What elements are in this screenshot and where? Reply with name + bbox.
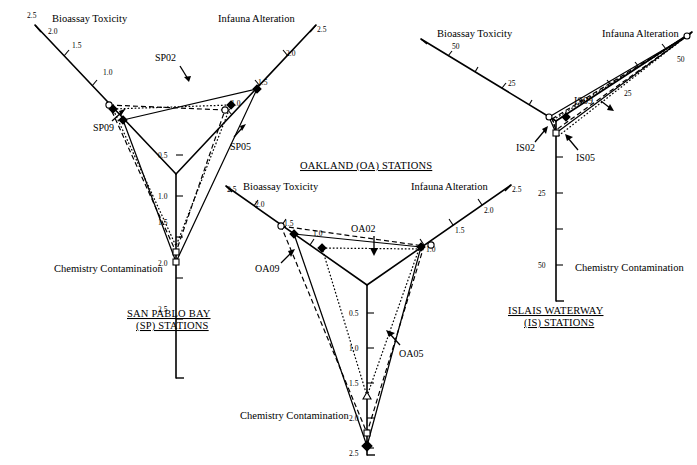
panel-is: 25 50 25 50 25 50 Bioassay Toxicity Infa…: [421, 28, 692, 329]
sp-tick-infauna-2: 1.5: [258, 78, 268, 87]
is-callout-IS05: IS05: [565, 134, 595, 163]
oa-marker-OA09-chemistry: [364, 430, 370, 436]
sp-axislabel-chemistry: Chemistry Contamination: [54, 263, 164, 274]
sp-tick-bioassay-1: 1.0: [103, 68, 113, 77]
sp-tick-infauna-3: 2.0: [286, 49, 296, 58]
oa-arrow-OA02-icon: [370, 248, 378, 256]
is-callout-IS02: IS02: [516, 126, 548, 153]
sp-markers: [106, 85, 261, 265]
sp-axislabel-infauna: Infauna Alteration: [218, 13, 295, 24]
sp-marker-SP05-chemistry: [173, 259, 179, 265]
is-marker-IS09-infauna: [684, 33, 690, 39]
sp-tick-infauna-4: 2.5: [317, 25, 327, 34]
figure-canvas: 1.0 1.5 2.0 2.5 1.0 1.5 2.0 2.5 0.5 1.0 …: [0, 0, 697, 465]
triad-figure: 1.0 1.5 2.0 2.5 1.0 1.5 2.0 2.5 0.5 1.0 …: [0, 0, 697, 465]
oa-series-OA02: [322, 248, 419, 396]
sp-tick-chem-1: 0.5: [158, 151, 168, 160]
oa-title-line1: OAKLAND (OA) STATIONS: [300, 160, 432, 172]
oa-marker-OA09-infauna: [428, 242, 434, 248]
sp-marker-SP02-chemistry: [173, 249, 179, 255]
sp-ticks-infauna: 1.0 1.5 2.0 2.5: [227, 25, 327, 115]
is-series-IS05: [553, 39, 683, 137]
panel-oa: OAKLAND (OA) STATIONS 1.0 1.5 2.0 2.5 1.…: [226, 160, 522, 458]
sp-marker-SP05-bioassay: [119, 116, 127, 124]
sp-axislabel-bioassay: Bioassay Toxicity: [52, 13, 128, 24]
is-tick-chem-2: 50: [538, 261, 546, 270]
is-series-IS02: [552, 34, 690, 130]
is-ticks-chemistry: 25 50: [538, 157, 563, 270]
sp-title-line2: (SP) STATIONS: [136, 320, 209, 332]
oa-marker-OA02-chemistry: [363, 392, 371, 399]
is-marker-IS02-bioassay: [546, 114, 552, 120]
oa-axislabel-bioassay: Bioassay Toxicity: [243, 181, 319, 192]
oa-callout-OA05-label: OA05: [399, 348, 423, 359]
is-title-line1: ISLAIS WATERWAY: [508, 305, 604, 316]
oa-tick-bioassay-4: 2.5: [227, 185, 237, 194]
sp-callout-SP05-label: SP05: [230, 141, 251, 152]
is-axislabel-bioassay: Bioassay Toxicity: [437, 28, 513, 39]
is-arrow-IS09-icon: [607, 104, 614, 111]
oa-tick-infauna-2: 1.5: [455, 226, 465, 235]
sp-marker-SP09-infauna: [222, 107, 228, 113]
is-callout-IS09-label: IS09: [574, 95, 593, 106]
oa-axislabel-chemistry: Chemistry Contamination: [240, 410, 350, 421]
is-axislabel-chemistry: Chemistry Contamination: [575, 262, 685, 273]
oa-axis-infauna: [367, 185, 511, 285]
is-marker-IS05-chemistry: [553, 130, 559, 136]
oa-axislabel-infauna: Infauna Alteration: [411, 181, 488, 192]
oa-tick-chem-5: 2.5: [349, 449, 359, 458]
oa-tick-bioassay-3: 2.0: [255, 200, 265, 209]
oa-tick-chem-1: 0.5: [349, 309, 359, 318]
oa-tick-infauna-3: 2.0: [484, 206, 494, 215]
sp-ticks-bioassay: 1.0 1.5 2.0 2.5: [27, 11, 125, 115]
oa-marker-OA09-bioassay: [278, 223, 284, 229]
oa-tick-infauna-4: 2.5: [512, 185, 522, 194]
sp-series-SP09: [109, 105, 225, 252]
oa-callout-OA02-label: OA02: [351, 223, 375, 234]
panel-sp: 1.0 1.5 2.0 2.5 1.0 1.5 2.0 2.5 0.5 1.0 …: [27, 11, 327, 378]
oa-callout-OA09-label: OA09: [255, 263, 279, 274]
oa-marker-OA05-chemistry: [362, 441, 372, 451]
is-title-line2: (IS) STATIONS: [524, 317, 594, 329]
oa-callout-OA02: OA02: [351, 223, 378, 256]
oa-ticks-infauna: 1.0 1.5 2.0 2.5: [420, 185, 522, 254]
sp-axis-bioassay: [35, 25, 176, 174]
sp-tick-bioassay-4: 2.5: [27, 11, 37, 20]
is-axis-bioassay: [421, 39, 556, 121]
is-axislabel-infauna: Infauna Alteration: [602, 28, 679, 39]
is-callout-IS05-label: IS05: [576, 152, 595, 163]
sp-arrow-SP02-icon: [184, 76, 191, 82]
sp-callout-SP02: SP02: [155, 52, 191, 82]
sp-title-line1: SAN PABLO BAY: [127, 308, 211, 319]
is-markers: [546, 33, 690, 136]
is-axes: [421, 32, 692, 301]
is-tick-bioassay-1: 25: [508, 79, 516, 88]
sp-tick-bioassay-3: 2.0: [48, 27, 58, 36]
sp-callout-SP02-label: SP02: [155, 52, 176, 63]
is-callout-IS02-label: IS02: [516, 142, 535, 153]
is-series-IS09: [549, 36, 687, 133]
is-tick-infauna-2: 50: [677, 55, 685, 64]
is-ticks-bioassay: 25 50: [448, 42, 532, 105]
sp-tick-bioassay-2: 1.5: [72, 41, 82, 50]
sp-cap-infauna: [310, 25, 316, 32]
sp-callout-SP09-label: SP09: [93, 122, 114, 133]
oa-tick-chem-3: 1.5: [349, 379, 359, 388]
is-tick-infauna-1: 25: [624, 89, 632, 98]
is-tick-chem-1: 25: [538, 189, 546, 198]
oa-callout-OA09: OA09: [255, 249, 295, 274]
sp-tick-chem-2: 1.0: [158, 192, 168, 201]
is-tick-bioassay-2: 50: [452, 42, 460, 51]
sp-callout-SP05: SP05: [230, 124, 251, 152]
sp-cap-bioassay: [35, 25, 41, 32]
